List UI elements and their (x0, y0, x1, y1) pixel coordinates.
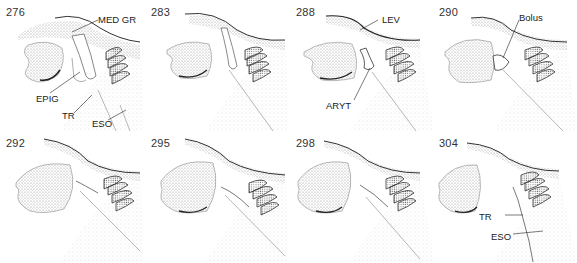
label-tr: TR (479, 211, 492, 222)
anatomy-drawing (0, 131, 144, 262)
anatomy-drawing (145, 131, 289, 262)
panel-frame-298: 298 (290, 131, 434, 262)
panel-frame-290: 290 Bolus (433, 0, 577, 131)
label-lev: LEV (382, 14, 400, 25)
panel-frame-276: 276 MED GR EPIG TR ESO (0, 0, 144, 131)
frame-number: 276 (6, 6, 25, 18)
panel-frame-304: 304 TR ESO (433, 131, 577, 262)
label-epig: EPIG (36, 93, 59, 104)
anatomy-drawing (290, 0, 434, 131)
panel-frame-288: 288 LEV ARYT (290, 0, 434, 131)
panel-frame-292: 292 (0, 131, 144, 262)
frame-number: 295 (151, 137, 170, 149)
label-eso: ESO (92, 118, 112, 129)
frame-number: 290 (439, 6, 458, 18)
label-eso: ESO (491, 231, 511, 242)
panel-frame-283: 283 (145, 0, 289, 131)
frame-number: 292 (6, 137, 25, 149)
label-bolus: Bolus (519, 12, 543, 23)
anatomy-drawing (433, 0, 577, 131)
frame-number: 298 (296, 137, 315, 149)
anatomy-drawing (290, 131, 434, 262)
label-tr: TR (62, 110, 75, 121)
swallow-sequence-figure: 276 MED GR EPIG TR ESO 283 (0, 0, 577, 263)
label-med-gr: MED GR (98, 14, 136, 25)
anatomy-drawing (145, 0, 289, 131)
label-aryt: ARYT (326, 100, 351, 111)
panel-frame-295: 295 (145, 131, 289, 262)
frame-number: 304 (439, 137, 458, 149)
anatomy-drawing (433, 131, 577, 262)
frame-number: 288 (296, 6, 315, 18)
frame-number: 283 (151, 6, 170, 18)
